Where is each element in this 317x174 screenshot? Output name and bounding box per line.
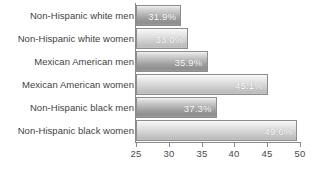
category-label: Non-Hispanic black women xyxy=(18,125,134,136)
x-axis-tick-label: 35 xyxy=(197,148,208,159)
x-axis-tick xyxy=(300,143,301,147)
category-label: Non-Hispanic black men xyxy=(30,102,134,113)
bar-value-label: 31.9% xyxy=(148,10,176,21)
bar-value-label: 33.0% xyxy=(156,33,184,44)
bar-value-label: 49.6% xyxy=(264,125,292,136)
x-axis-tick xyxy=(136,143,137,147)
bar-value-label: 37.3% xyxy=(184,102,212,113)
bar: 45.1% xyxy=(136,74,268,95)
x-axis-tick-label: 30 xyxy=(164,148,175,159)
bar: 49.6% xyxy=(136,120,297,141)
x-axis-tick-label: 40 xyxy=(229,148,240,159)
x-axis-tick xyxy=(234,143,235,147)
x-axis-tick-label: 45 xyxy=(262,148,273,159)
bar-chart: Non-Hispanic white menNon-Hispanic white… xyxy=(0,0,317,174)
x-axis-line xyxy=(135,142,301,143)
x-axis-tick-label: 25 xyxy=(131,148,142,159)
x-axis-tick xyxy=(169,143,170,147)
category-label: Mexican American women xyxy=(22,79,134,90)
category-label: Mexican American men xyxy=(34,56,134,67)
category-label: Non-Hispanic white women xyxy=(18,33,134,44)
x-axis-tick-label: 50 xyxy=(295,148,306,159)
x-axis-tick xyxy=(202,143,203,147)
category-label: Non-Hispanic white men xyxy=(30,10,134,21)
bar: 35.9% xyxy=(136,51,208,72)
bar: 37.3% xyxy=(136,97,217,118)
plot-area: 31.9%33.0%35.9%45.1%37.3%49.6% xyxy=(136,4,300,142)
bar: 33.0% xyxy=(136,28,188,49)
x-axis-tick xyxy=(267,143,268,147)
bar-value-label: 45.1% xyxy=(235,79,263,90)
bar: 31.9% xyxy=(136,5,181,26)
bar-value-label: 35.9% xyxy=(175,56,203,67)
